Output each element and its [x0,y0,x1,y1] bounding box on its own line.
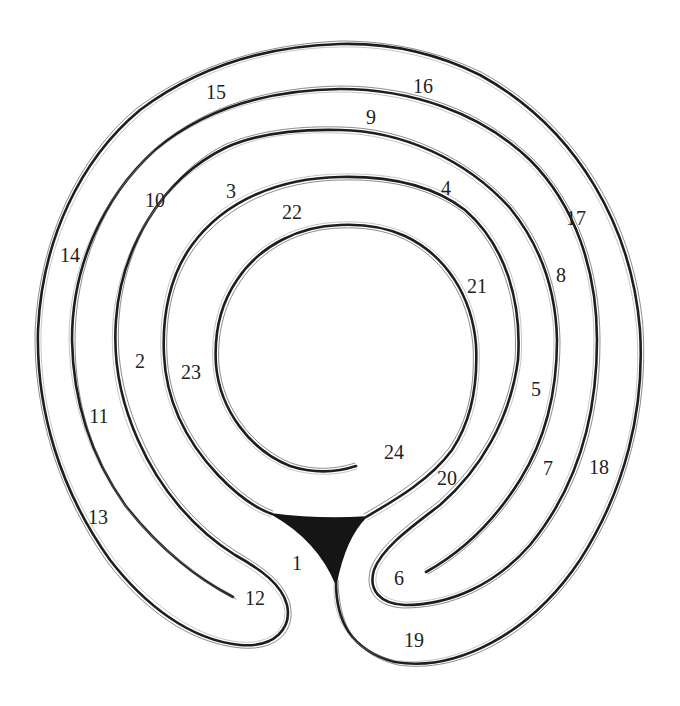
label-22: 22 [282,201,302,223]
label-18: 18 [589,456,609,478]
wall-outer-to-ring3 [35,41,644,666]
label-14: 14 [60,244,80,266]
label-10: 10 [145,189,165,211]
label-4: 4 [441,177,451,199]
label-7: 7 [543,457,553,479]
label-5: 5 [531,378,541,400]
label-17: 17 [566,207,586,229]
labyrinth-diagram: 1 2 3 4 5 6 7 8 9 10 11 12 13 14 15 16 1… [0,0,680,706]
label-16: 16 [413,75,433,97]
label-24: 24 [384,441,404,463]
label-9: 9 [366,106,376,128]
label-3: 3 [226,180,236,202]
entry-triangle [272,514,366,584]
label-6: 6 [394,567,404,589]
label-12: 12 [245,587,265,609]
label-21: 21 [467,275,487,297]
label-23: 23 [181,361,201,383]
label-11: 11 [89,405,108,427]
label-2: 2 [135,350,145,372]
label-8: 8 [556,264,566,286]
label-1: 1 [292,552,302,574]
label-19: 19 [404,629,424,651]
label-20: 20 [437,467,457,489]
label-15: 15 [206,81,226,103]
label-13: 13 [88,506,108,528]
